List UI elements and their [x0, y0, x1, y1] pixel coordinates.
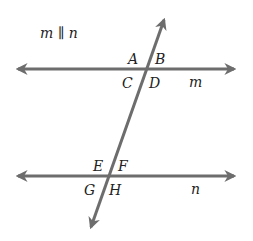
angle-label-a: A: [126, 51, 138, 67]
angle-label-e: E: [92, 158, 103, 174]
angle-label-g: G: [84, 182, 95, 198]
angle-label-d: D: [148, 75, 160, 91]
line-label-n: n: [191, 181, 200, 197]
line-label-m: m: [189, 74, 202, 90]
angle-label-f: F: [117, 158, 129, 174]
angle-label-b: B: [154, 51, 165, 67]
parallel-lines-transversal-diagram: m ∥ n A B C D m E F G H n: [0, 0, 253, 241]
parallel-statement-label: m ∥ n: [40, 25, 78, 41]
angle-label-h: H: [108, 182, 122, 198]
angle-label-c: C: [122, 75, 133, 91]
